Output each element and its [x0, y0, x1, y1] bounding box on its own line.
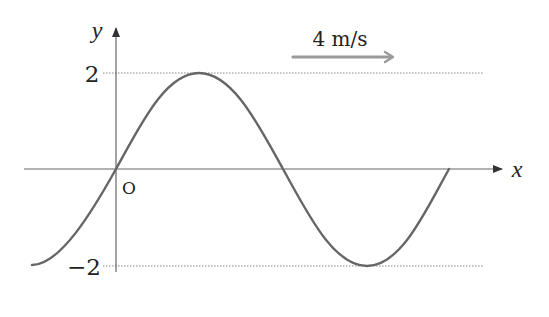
velocity-arrow — [293, 52, 393, 62]
velocity-label: 4 m/s — [312, 27, 367, 51]
wave-diagram: 4 m/s y x O 2 −2 — [0, 0, 549, 317]
amplitude-min-label: −2 — [67, 254, 101, 280]
x-axis-label: x — [511, 156, 523, 182]
y-axis-label: y — [90, 17, 103, 43]
amplitude-max-label: 2 — [85, 61, 100, 87]
origin-label: O — [122, 178, 136, 198]
